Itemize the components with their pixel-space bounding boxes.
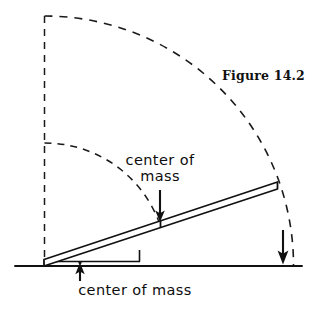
outer-dashed-arc — [45, 16, 294, 265]
center-of-mass-label-lower: center of mass — [57, 282, 213, 298]
center-of-mass-label-upper: center of mass — [108, 152, 212, 184]
figure-caption: Figure 14.2 — [222, 68, 305, 83]
figure-14-2-diagram: Figure 14.2 center of mass center of mas… — [0, 0, 317, 312]
cm-upper-arrow — [155, 190, 165, 222]
cm-lower-arrow — [75, 261, 84, 281]
center-of-mass-label-upper-line2: mass — [108, 168, 212, 184]
center-of-mass-label-upper-line1: center of — [108, 152, 212, 168]
tip-landing-arrow — [278, 230, 289, 265]
